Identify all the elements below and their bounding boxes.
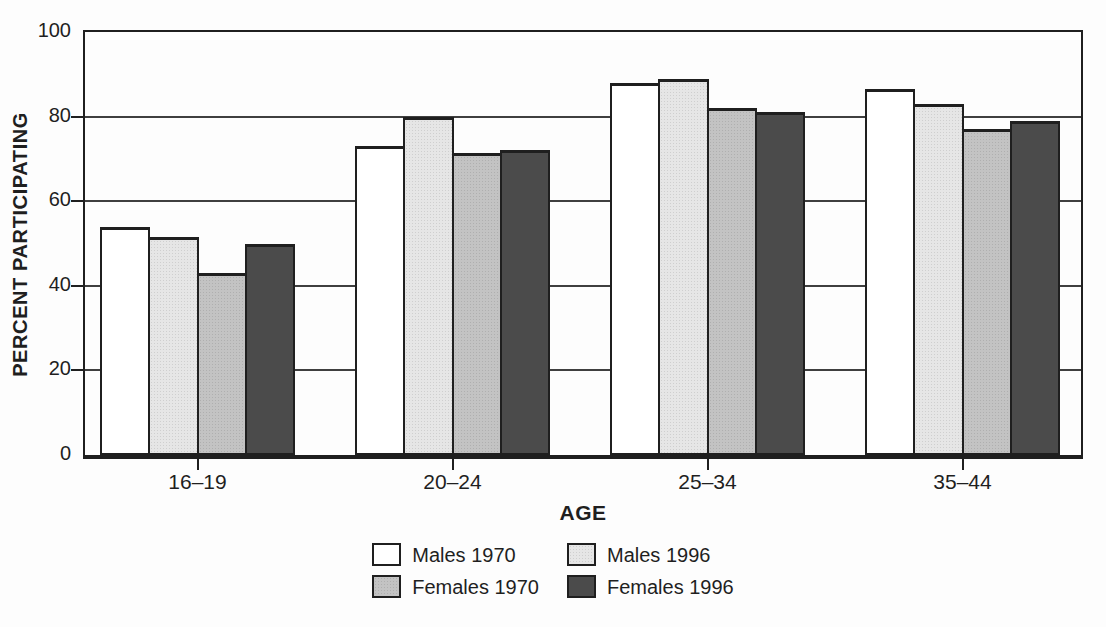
bar-group-20-24 (355, 32, 550, 455)
bar-males-1996-25-34 (658, 79, 708, 455)
bar-females-1970-16-19 (197, 273, 247, 455)
legend-item-males-1970: Males 1970 (372, 543, 539, 566)
bar-males-1970-20-24 (355, 146, 405, 455)
x-axis-tick-labels: 16–1920–2425–3435–44 (83, 471, 1083, 495)
bar-males-1996-16-19 (148, 237, 198, 455)
y-tick-mark-20 (71, 369, 83, 371)
bar-males-1970-25-34 (610, 83, 660, 455)
legend-label-males-1970: Males 1970 (412, 544, 515, 566)
bar-females-1996-16-19 (245, 244, 295, 456)
x-tick-mark-35-44 (962, 459, 964, 470)
x-tick-label-16-19: 16–19 (168, 471, 226, 492)
bar-group-16-19 (100, 32, 295, 455)
legend: Males 1970Males 1996Females 1970Females … (0, 543, 1106, 598)
plot-area (83, 30, 1083, 459)
bar-group-35-44 (865, 32, 1060, 455)
x-tick-label-35-44: 35–44 (933, 471, 991, 492)
x-tick-label-20-24: 20–24 (423, 471, 481, 492)
x-axis-title: AGE (83, 501, 1083, 525)
x-tick-mark-16-19 (197, 459, 199, 470)
bar-females-1970-35-44 (962, 129, 1012, 455)
bar-males-1996-35-44 (913, 104, 963, 455)
bar-males-1970-35-44 (865, 89, 915, 455)
bar-chart-figure: PERCENT PARTICIPATING 020406080100 16–19… (0, 0, 1106, 627)
bar-males-1970-16-19 (100, 227, 150, 455)
y-axis-tick-labels: 020406080100 (0, 30, 71, 453)
y-tick-mark-40 (71, 285, 83, 287)
legend-label-males-1996: Males 1996 (607, 544, 710, 566)
legend-item-females-1970: Females 1970 (372, 575, 539, 598)
y-tick-label-40: 40 (49, 274, 71, 294)
bar-males-1996-20-24 (403, 117, 453, 455)
legend-swatch-males-1970 (372, 543, 401, 566)
bar-females-1970-20-24 (452, 153, 502, 455)
legend-label-females-1970: Females 1970 (412, 576, 539, 598)
y-tick-label-100: 100 (38, 20, 71, 40)
bar-females-1996-20-24 (500, 150, 550, 455)
legend-swatch-females-1996 (567, 575, 596, 598)
legend-item-males-1996: Males 1996 (567, 543, 734, 566)
y-tick-label-0: 0 (60, 443, 71, 463)
legend-label-females-1996: Females 1996 (607, 576, 734, 598)
x-tick-label-25-34: 25–34 (678, 471, 736, 492)
x-tick-mark-25-34 (707, 459, 709, 470)
bar-females-1996-35-44 (1010, 121, 1060, 455)
y-tick-label-20: 20 (49, 358, 71, 378)
legend-swatch-males-1996 (567, 543, 596, 566)
legend-grid: Males 1970Males 1996Females 1970Females … (372, 543, 734, 598)
bar-group-25-34 (610, 32, 805, 455)
y-tick-label-80: 80 (49, 105, 71, 125)
x-tick-mark-20-24 (452, 459, 454, 470)
y-tick-mark-80 (71, 116, 83, 118)
bar-females-1996-25-34 (755, 112, 805, 455)
legend-swatch-females-1970 (372, 575, 401, 598)
bar-females-1970-25-34 (707, 108, 757, 455)
y-tick-mark-60 (71, 200, 83, 202)
legend-item-females-1996: Females 1996 (567, 575, 734, 598)
y-tick-label-60: 60 (49, 189, 71, 209)
